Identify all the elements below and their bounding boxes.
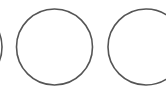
circle-left-partial [0, 9, 2, 85]
circle-middle [17, 9, 93, 85]
circles-canvas [0, 0, 166, 90]
circle-right-partial [108, 9, 166, 85]
